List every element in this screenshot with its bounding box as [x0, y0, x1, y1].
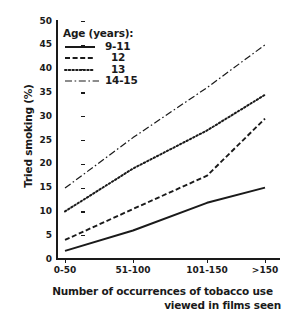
y-tick-label: 30	[30, 112, 52, 121]
x-axis-title: Number of occurrences of tobacco use vie…	[30, 285, 295, 312]
y-tick-label: 10	[30, 207, 52, 216]
legend-swatch-dash-dot	[63, 75, 101, 85]
legend: Age (years): 9-11121314-15	[63, 27, 175, 86]
y-axis-tick-labels: 05101520253035404550	[28, 0, 52, 324]
x-tick-label: >150	[252, 265, 278, 275]
y-tick-label: 50	[30, 17, 52, 26]
x-tick-mark	[207, 260, 208, 263]
x-tick-label: 51-100	[115, 265, 150, 275]
legend-entry-12: 12	[63, 52, 175, 64]
legend-label: 9-11	[105, 40, 130, 52]
series-line-12	[65, 119, 265, 240]
legend-label: 14-15	[105, 74, 138, 86]
x-tick-mark	[265, 260, 266, 263]
legend-swatch-dotted	[63, 64, 101, 74]
y-tick-label: 40	[30, 64, 52, 73]
y-tick-label: 15	[30, 183, 52, 192]
legend-label: 13	[111, 63, 125, 75]
series-line-9-11	[65, 188, 265, 251]
legend-swatch-dashed	[63, 52, 101, 62]
y-tick-label: 0	[30, 255, 52, 264]
legend-entry-14-15: 14-15	[63, 75, 175, 87]
x-axis-title-line2: viewed in films seen	[30, 299, 295, 313]
legend-entries: 9-11121314-15	[63, 40, 175, 86]
legend-label: 12	[111, 51, 125, 63]
x-tick-mark	[65, 260, 66, 263]
y-tick-label: 5	[30, 231, 52, 240]
x-axis-title-line1: Number of occurrences of tobacco use	[52, 285, 273, 297]
y-tick-label: 25	[30, 136, 52, 145]
y-tick-label: 45	[30, 40, 52, 49]
y-tick-label: 20	[30, 159, 52, 168]
x-tick-label: 0-50	[54, 265, 77, 275]
y-tick-label: 35	[30, 88, 52, 97]
chart-figure: Tried smoking (%) 05101520253035404550 0…	[0, 0, 301, 324]
legend-title: Age (years):	[63, 27, 175, 39]
legend-swatch-solid	[63, 41, 101, 51]
legend-entry-9-11: 9-11	[63, 40, 175, 52]
x-tick-mark	[133, 260, 134, 263]
legend-entry-13: 13	[63, 63, 175, 75]
x-tick-label: 101-150	[186, 265, 227, 275]
